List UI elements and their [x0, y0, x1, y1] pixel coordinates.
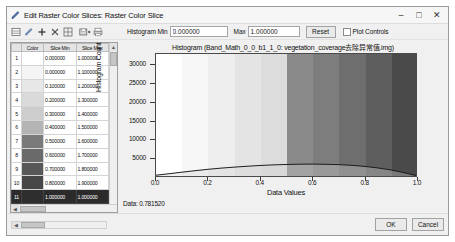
slice-max-value[interactable]: 1.200000 [76, 79, 109, 93]
plot-controls-checkbox[interactable] [343, 28, 351, 36]
pencil-icon [11, 10, 21, 20]
y-tick-label: 25000 [110, 79, 146, 86]
histogram-plot-panel: Histogram (Band_Math_0_0_b1_1_0: vegetat… [121, 42, 445, 213]
slice-min-value[interactable]: 0.100000 [44, 79, 77, 93]
row-index: 8 [12, 148, 22, 162]
y-tick-label: 20000 [110, 98, 146, 105]
slice-max-value[interactable]: 1.900000 [76, 176, 109, 190]
color-swatch[interactable] [22, 176, 44, 190]
save-slices-icon[interactable] [79, 26, 91, 38]
slice-min-value[interactable]: 0.400000 [44, 121, 77, 135]
table-row[interactable]: 90.7000001.800000 [12, 162, 109, 176]
slice-min-value[interactable]: 0.200000 [44, 93, 77, 107]
maximize-button[interactable]: □ [410, 8, 428, 23]
table-body: 10.0000001.00000020.0000001.10000030.100… [12, 52, 109, 204]
color-swatch[interactable] [22, 79, 44, 93]
x-tick-label: 1.0 [406, 179, 428, 186]
data-readout: Data: 0.781520 [123, 200, 165, 207]
slice-max-value[interactable]: 1.700000 [76, 148, 109, 162]
table-row[interactable]: 30.1000001.200000 [12, 79, 109, 93]
plot-area[interactable] [155, 53, 417, 177]
histogram-max-label: Max [234, 28, 246, 35]
table-row[interactable]: 40.2000001.300000 [12, 93, 109, 107]
row-index: 5 [12, 107, 22, 121]
table-row[interactable]: 80.6000001.700000 [12, 148, 109, 162]
x-tick-label: 0.6 [301, 179, 323, 186]
slice-max-value[interactable]: 1.400000 [76, 107, 109, 121]
delete-slice-icon[interactable] [49, 26, 61, 38]
table-header-row: Color Slice Min Slice Max [12, 44, 109, 52]
footer-scroll-left-arrow[interactable]: ◀ [12, 222, 20, 228]
window-title: Edit Raster Color Slices: Raster Color S… [24, 11, 392, 20]
slice-max-value[interactable]: 1.600000 [76, 134, 109, 148]
title-bar: Edit Raster Color Slices: Raster Color S… [7, 7, 448, 24]
col-slice-min: Slice Min [44, 44, 77, 52]
slice-min-value[interactable]: 0.000000 [44, 52, 77, 66]
color-swatch[interactable] [22, 107, 44, 121]
table-horizontal-scrollbar[interactable]: ◀ [11, 204, 117, 212]
edit-slices-icon[interactable] [23, 26, 35, 38]
slice-max-value[interactable]: 1.800000 [76, 162, 109, 176]
row-index: 1 [12, 52, 22, 66]
ok-button[interactable]: OK [375, 218, 407, 231]
slice-max-value[interactable]: 1.000000 [76, 190, 109, 204]
slice-min-value[interactable]: 0.000000 [44, 65, 77, 79]
slice-max-value[interactable]: 1.300000 [76, 93, 109, 107]
plot-controls-checkbox-group[interactable]: Plot Controls [343, 28, 389, 36]
table-row[interactable]: 20.0000001.100000 [12, 65, 109, 79]
table-row[interactable]: 111.0000001.000000 [12, 190, 109, 204]
color-swatch[interactable] [22, 162, 44, 176]
slice-min-value[interactable]: 1.000000 [44, 190, 77, 204]
row-index: 4 [12, 93, 22, 107]
close-button[interactable]: ✕ [428, 8, 446, 23]
color-swatch[interactable] [22, 148, 44, 162]
slice-min-value[interactable]: 0.300000 [44, 107, 77, 121]
color-swatch[interactable] [22, 134, 44, 148]
slice-min-value[interactable]: 0.800000 [44, 176, 77, 190]
histogram-max-input[interactable] [248, 26, 300, 37]
x-tick-label: 0.4 [249, 179, 271, 186]
cancel-button[interactable]: Cancel [412, 218, 444, 231]
color-swatch[interactable] [22, 121, 44, 135]
row-index: 9 [12, 162, 22, 176]
add-slice-icon[interactable] [36, 26, 48, 38]
grid-slices-icon[interactable] [62, 26, 74, 38]
color-swatch[interactable] [22, 93, 44, 107]
table-row[interactable]: 10.0000001.000000 [12, 52, 109, 66]
table-row[interactable]: 100.8000001.900000 [12, 176, 109, 190]
slice-min-value[interactable]: 0.500000 [44, 134, 77, 148]
y-axis-title: Histogram Count [95, 42, 102, 92]
x-tick-label: 0.2 [196, 179, 218, 186]
print-slices-icon[interactable] [92, 26, 104, 38]
row-index: 6 [12, 121, 22, 135]
color-swatch[interactable] [22, 65, 44, 79]
reset-button[interactable]: Reset [306, 26, 336, 38]
slice-min-value[interactable]: 0.700000 [44, 162, 77, 176]
histogram-min-label: Histogram Min [127, 28, 168, 35]
slice-max-value[interactable]: 1.100000 [76, 65, 109, 79]
color-swatch[interactable] [22, 190, 44, 204]
slice-max-value[interactable]: 1.500000 [76, 121, 109, 135]
horizontal-scroll-thumb[interactable] [20, 206, 46, 212]
table-row[interactable]: 60.4000001.500000 [12, 121, 109, 135]
scroll-up-arrow[interactable]: ▲ [110, 43, 117, 51]
x-axis-title: Data Values [155, 188, 417, 197]
footer-horizontal-scrollbar[interactable]: ◀ [11, 221, 107, 229]
y-tick-label: 15000 [110, 117, 146, 124]
new-slices-icon[interactable] [10, 26, 22, 38]
y-tick-label: 30000 [110, 60, 146, 67]
slice-max-value[interactable]: 1.000000 [76, 52, 109, 66]
row-index: 10 [12, 176, 22, 190]
slice-min-value[interactable]: 0.600000 [44, 148, 77, 162]
histogram-curve [156, 54, 416, 176]
table-row[interactable]: 50.3000001.400000 [12, 107, 109, 121]
scroll-left-arrow[interactable]: ◀ [11, 205, 19, 212]
histogram-min-input[interactable] [170, 26, 228, 37]
color-swatch[interactable] [22, 52, 44, 66]
row-index: 3 [12, 79, 22, 93]
table-row[interactable]: 70.5000001.600000 [12, 134, 109, 148]
plot-title: Histogram (Band_Math_0_0_b1_1_0: vegetat… [121, 42, 445, 52]
dialog-footer: ◀ OK Cancel [7, 213, 448, 235]
footer-scroll-thumb[interactable] [21, 222, 45, 228]
minimize-button[interactable]: – [392, 8, 410, 23]
